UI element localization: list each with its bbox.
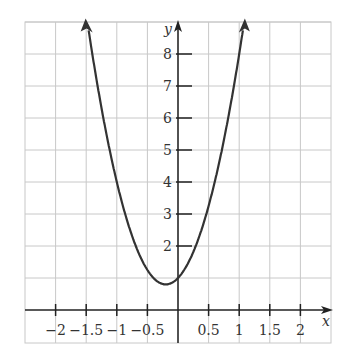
x-axis-label: x [322, 313, 330, 329]
x-tick-label: 1 [235, 322, 244, 338]
x-tick-label: −1.5 [69, 322, 103, 338]
x-tick-label: 2 [296, 322, 305, 338]
y-tick-label: 3 [163, 206, 172, 222]
x-tick-label: −1 [106, 322, 127, 338]
x-tick-label: 1.5 [259, 322, 281, 338]
x-tick-label: −2 [45, 322, 66, 338]
y-tick-label: 5 [163, 142, 172, 158]
y-tick-label: 8 [163, 46, 172, 62]
chart-container: −2−1.5−1−0.50.511.522345678 x y [0, 0, 343, 351]
y-tick-label: 6 [163, 110, 172, 126]
curve-arrow-right-icon [239, 18, 250, 32]
y-tick-label: 7 [163, 78, 172, 94]
y-tick-label: 2 [163, 238, 172, 254]
x-tick-label: −0.5 [130, 322, 164, 338]
chart: −2−1.5−1−0.50.511.522345678 x y [0, 0, 343, 351]
ticks: −2−1.5−1−0.50.511.522345678 [45, 46, 305, 338]
y-tick-label: 4 [163, 174, 172, 190]
x-tick-label: 0.5 [197, 322, 219, 338]
y-axis-label: y [163, 21, 173, 37]
